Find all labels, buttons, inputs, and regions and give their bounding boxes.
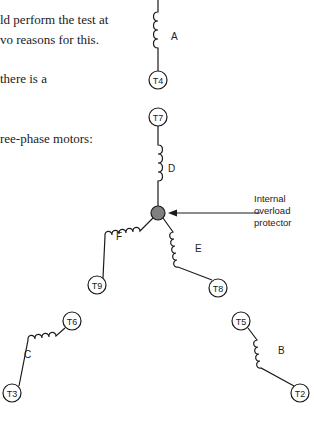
terminal-label-t2: T2 xyxy=(295,389,306,399)
terminal-label-t7: T7 xyxy=(153,113,164,123)
coil-e: E xyxy=(163,218,212,280)
coil-label-b: B xyxy=(278,345,285,356)
terminal-t9: T9 xyxy=(88,276,106,294)
terminal-t5: T5 xyxy=(232,312,250,330)
coil-f: F xyxy=(103,218,153,278)
terminal-t8: T8 xyxy=(209,279,227,297)
coil-a: A xyxy=(154,0,179,71)
protector-arrow xyxy=(168,210,260,217)
coil-label-d: D xyxy=(168,163,175,174)
annotation-line-1: Internal xyxy=(254,193,286,204)
terminal-label-t6: T6 xyxy=(67,317,78,327)
terminal-label-t5: T5 xyxy=(236,317,247,327)
terminal-t2: T2 xyxy=(291,384,309,402)
annotation-line-2: overload xyxy=(254,205,290,216)
terminal-t3: T3 xyxy=(3,384,21,402)
internal-overload-protector xyxy=(151,206,165,220)
terminal-label-t8: T8 xyxy=(213,284,224,294)
coil-label-c: C xyxy=(24,349,31,360)
coil-c: C xyxy=(19,328,65,386)
motor-winding-diagram: A T4 T7 D F T9 E T8 Internal overload pr… xyxy=(0,0,314,424)
annotation-line-3: protector xyxy=(254,217,292,228)
coil-label-e: E xyxy=(195,243,202,254)
terminal-t7: T7 xyxy=(149,108,167,126)
terminal-t4: T4 xyxy=(149,71,167,89)
terminal-label-t4: T4 xyxy=(153,76,164,86)
terminal-label-t9: T9 xyxy=(92,281,103,291)
coil-d: D xyxy=(158,126,175,206)
terminal-t6: T6 xyxy=(63,312,81,330)
coil-b: B xyxy=(248,328,294,386)
coil-label-a: A xyxy=(171,31,178,42)
terminal-label-t3: T3 xyxy=(7,389,18,399)
coil-label-f: F xyxy=(116,231,122,242)
